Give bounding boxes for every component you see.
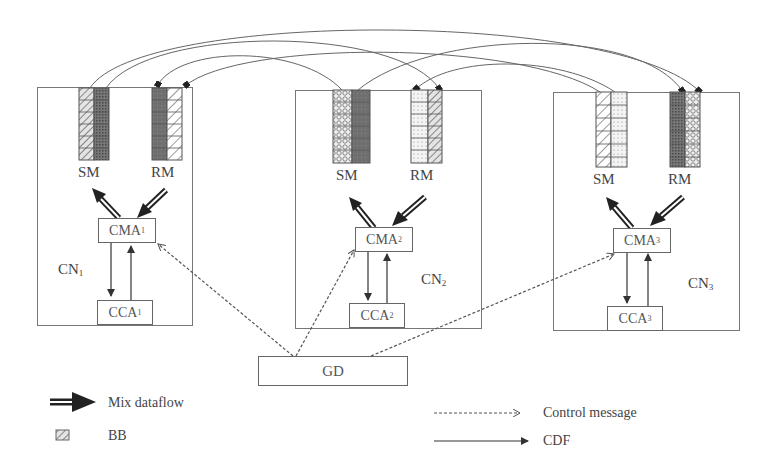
cn1-sm-label: SM — [78, 165, 100, 180]
gd-box: GD — [258, 356, 408, 386]
mix-dataflow-cma3-to-sm3 — [606, 197, 632, 228]
legend-mix-dataflow-label: Mix dataflow — [108, 395, 184, 411]
cn3-rm-buffer — [670, 92, 700, 167]
cn1-rm-buffer — [152, 88, 182, 160]
cn1-label-text: CN — [58, 261, 79, 277]
cma1-box: CMA1 — [98, 218, 156, 243]
cma2-box: CMA2 — [355, 227, 413, 252]
cn3-label-text: CN — [688, 275, 709, 291]
arc-sm1-rm2 — [106, 41, 440, 90]
arc-sm3-rm2 — [415, 64, 615, 92]
cca1-subscript: 1 — [137, 308, 141, 317]
cn2-sm-label: SM — [336, 168, 358, 183]
legend-cdf-label: CDF — [543, 433, 570, 449]
cn2-rm-buffer — [411, 90, 442, 163]
cn2-label: CN2 — [421, 272, 446, 288]
cn1-rm-label: RM — [151, 165, 174, 180]
cca1-box: CCA1 — [97, 300, 153, 325]
cn2-label-text: CN — [421, 271, 442, 287]
cn3-sm-label: SM — [593, 172, 615, 187]
cca1-label: CCA — [109, 305, 138, 321]
cn3-label-subscript: 3 — [709, 282, 714, 292]
cca3-label: CCA — [619, 311, 648, 327]
legend-mix-dataflow-icon — [50, 392, 96, 412]
cca2-label: CCA — [361, 308, 390, 324]
arc-sm2-rm1 — [157, 56, 342, 90]
cn1-sm-buffer — [79, 88, 109, 160]
cn3-sm-buffer — [596, 92, 627, 167]
cma3-box: CMA3 — [613, 228, 671, 253]
cca2-box: CCA2 — [349, 303, 405, 328]
cn1-label-subscript: 1 — [79, 268, 84, 278]
arc-sm1-rm3 — [90, 30, 700, 92]
cma1-label: CMA — [109, 223, 141, 239]
mix-dataflow-arrows — [92, 188, 683, 228]
cma3-subscript: 3 — [656, 236, 660, 245]
cn3-label: CN3 — [688, 276, 713, 292]
legend-bb-label: BB — [108, 428, 127, 444]
cma2-label: CMA — [366, 232, 398, 248]
cca2-subscript: 2 — [389, 311, 393, 320]
mix-dataflow-cma2-to-sm2 — [349, 197, 374, 228]
mix-dataflow-rm1-to-cma1 — [137, 190, 166, 218]
legend-control-message-label: Control message — [543, 405, 637, 421]
gd-label: GD — [322, 363, 344, 380]
cma3-label: CMA — [624, 233, 656, 249]
cn2-sm-buffer — [333, 90, 370, 163]
cca3-box: CCA3 — [607, 306, 663, 331]
cn1-label: CN1 — [58, 262, 83, 278]
cn2-label-subscript: 2 — [442, 278, 447, 288]
cma2-subscript: 2 — [398, 235, 402, 244]
cdf-arrows — [111, 243, 648, 306]
cn2-rm-label: RM — [410, 168, 433, 183]
cn2-box — [296, 91, 482, 329]
arc-sm2-rm3 — [358, 43, 683, 92]
buffer-transfer-arcs — [90, 30, 700, 92]
cn3-box — [554, 93, 740, 331]
cca3-subscript: 3 — [647, 314, 651, 323]
cma1-subscript: 1 — [141, 226, 145, 235]
cn3-rm-label: RM — [668, 172, 691, 187]
control-message-arrows — [158, 244, 614, 356]
mix-dataflow-rm2-to-cma2 — [392, 197, 425, 226]
mix-dataflow-cma1-to-sm1 — [92, 188, 119, 218]
mix-dataflow-rm3-to-cma3 — [650, 197, 683, 226]
legend-bb-icon — [56, 430, 69, 440]
